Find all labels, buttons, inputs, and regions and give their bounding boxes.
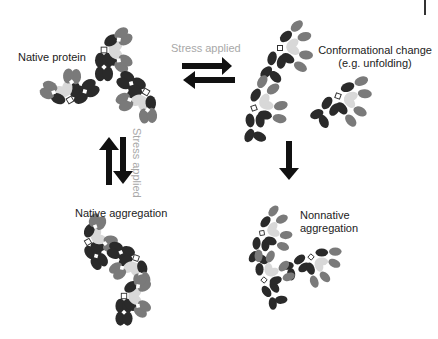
label-native-aggregation: Native aggregation (75, 207, 167, 220)
label-conformational-change-line2: (e.g. unfolding) (318, 57, 432, 70)
label-stress-vertical: Stress applied (131, 128, 143, 198)
reversible-arrow-vertical (99, 137, 133, 185)
label-native-protein: Native protein (18, 51, 86, 64)
native-aggregate (69, 207, 162, 326)
native-antibody-2 (33, 58, 102, 121)
label-conformational-change-line1: Conformational change (318, 44, 432, 57)
label-nonnative-line1: Nonnative (300, 209, 358, 222)
irreversible-arrow-down (279, 141, 299, 180)
label-conformational-change: Conformational change (e.g. unfolding) (318, 44, 432, 70)
label-nonnative-aggregation: Nonnative aggregation (300, 209, 358, 235)
label-nonnative-line2: aggregation (300, 222, 358, 235)
label-stress-horizontal: Stress applied (171, 42, 241, 55)
reversible-arrow-horizontal (182, 57, 235, 89)
native-antibody-3 (103, 69, 172, 132)
unfolded-antibody-3 (303, 60, 383, 145)
